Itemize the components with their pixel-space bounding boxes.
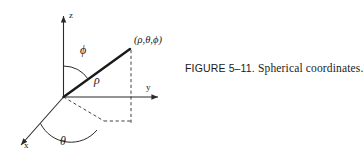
- point-coordinates-label: (ρ,θ,ϕ): [134, 34, 162, 46]
- figure-caption-label: FIGURE 5–11.: [185, 62, 255, 74]
- x-axis: x: [21, 97, 64, 150]
- figure-caption: FIGURE 5–11. Spherical coordinates.: [185, 62, 363, 75]
- z-axis-label: z: [69, 10, 73, 20]
- rho-label: ρ: [93, 73, 100, 87]
- figure-container: z y x ρ ϕ θ: [0, 0, 364, 157]
- theta-angle: θ: [41, 124, 98, 149]
- spherical-coordinates-diagram: z y x ρ ϕ θ: [0, 0, 364, 157]
- y-axis-label: y: [146, 82, 151, 92]
- figure-caption-text: Spherical coordinates.: [258, 62, 364, 74]
- phi-label: ϕ: [80, 43, 86, 57]
- theta-arc: [41, 124, 98, 143]
- phi-angle: ϕ: [64, 43, 89, 80]
- y-axis: y: [64, 82, 159, 97]
- phi-arc: [64, 66, 89, 80]
- projection-radial-dashed-line: [64, 97, 105, 121]
- z-axis: z: [64, 10, 74, 97]
- rho-vector: ρ: [64, 49, 131, 97]
- theta-label: θ: [60, 134, 66, 148]
- x-axis-label: x: [24, 140, 29, 150]
- x-axis-line: [21, 97, 64, 145]
